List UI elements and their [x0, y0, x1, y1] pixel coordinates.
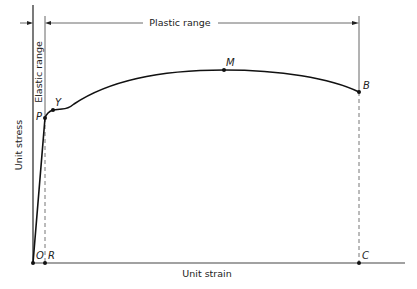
arrow-right-icon	[27, 21, 33, 25]
plastic-range-label: Plastic range	[149, 17, 211, 28]
label-m: M	[226, 57, 235, 68]
stress-strain-curve	[33, 70, 359, 263]
point-p	[43, 116, 47, 120]
label-p: P	[36, 111, 43, 122]
stress-strain-diagram: Plastic range Elastic range Unit stress …	[0, 0, 417, 289]
elastic-range-label: Elastic range	[33, 41, 44, 103]
label-o: O	[36, 250, 44, 261]
label-b: B	[363, 80, 370, 91]
point-y	[51, 108, 55, 112]
arrow-right-icon	[352, 21, 359, 25]
x-axis-label: Unit strain	[182, 268, 231, 279]
y-axis-label: Unit stress	[13, 120, 24, 171]
point-o	[31, 261, 35, 265]
label-r: R	[48, 250, 55, 261]
point-c	[357, 261, 361, 265]
point-b	[357, 90, 361, 94]
point-m	[222, 68, 226, 72]
arrow-left-icon	[45, 21, 51, 25]
point-r	[43, 261, 47, 265]
label-y: Y	[55, 97, 62, 108]
label-c: C	[362, 250, 369, 261]
